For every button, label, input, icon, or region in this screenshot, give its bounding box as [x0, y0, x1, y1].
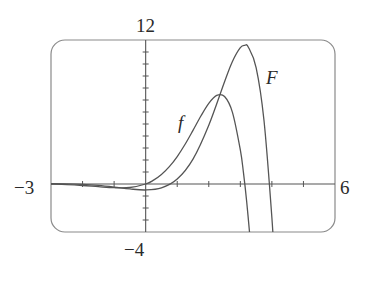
f-curve-label: f [178, 113, 183, 132]
plot-area [0, 0, 374, 281]
x-max-label: 6 [340, 178, 350, 197]
curve-f [51, 94, 250, 235]
axes [51, 40, 335, 232]
plot-frame [51, 40, 335, 232]
F-curve-label: F [266, 68, 278, 87]
y-min-label: −4 [124, 240, 144, 259]
y-max-label: 12 [136, 16, 155, 35]
x-min-label: −3 [14, 178, 34, 197]
curves [51, 45, 275, 272]
